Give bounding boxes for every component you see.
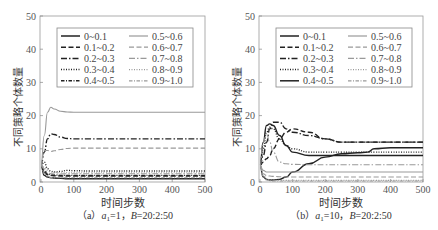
- legend-label: 0.6~0.7: [152, 42, 182, 53]
- legend-label: 0.1~0.2: [303, 42, 333, 53]
- legend-label: 0.4~0.5: [303, 75, 333, 86]
- y-tick-label: 30: [245, 77, 255, 88]
- legend-label: 0.9~1.0: [371, 75, 401, 86]
- legend-label: 0.1~0.2: [84, 42, 114, 53]
- x-axis-label: 时间步数: [319, 197, 363, 210]
- legend-label: 0.8~0.9: [152, 64, 182, 75]
- y-tick-label: 40: [26, 44, 36, 55]
- series-line-0.7~0.8: [41, 165, 205, 174]
- legend: 0~0.10.1~0.20.2~0.30.3~0.40.4~0.50.5~0.6…: [57, 28, 193, 87]
- series-line-0.8~0.9: [41, 165, 205, 172]
- x-tick-label: 0: [39, 184, 44, 195]
- legend-label: 0.7~0.8: [152, 53, 182, 64]
- x-tick-label: 500: [198, 184, 213, 195]
- panel-caption: （b）a1=10，B=20:2:50: [290, 210, 391, 223]
- x-tick-label: 0: [258, 184, 263, 195]
- x-tick-label: 400: [383, 184, 398, 195]
- x-tick-label: 200: [99, 184, 114, 195]
- y-tick-label: 30: [26, 77, 36, 88]
- x-axis-label: 时间步数: [101, 197, 145, 210]
- legend-label: 0.2~0.3: [303, 53, 333, 64]
- series-line-0.6~0.7: [260, 165, 423, 177]
- chart-panel-a: 010203040500100200300400500时间步数不同策略个体数量0…: [12, 11, 213, 224]
- y-tick-label: 20: [26, 110, 36, 121]
- series-line-0.2~0.3: [41, 134, 205, 166]
- panel-caption: （a）a1=1，B=20:2:50: [77, 210, 173, 223]
- series-line-0.5~0.6: [41, 107, 205, 165]
- y-tick-label: 40: [245, 44, 255, 55]
- legend-label: 0~0.1: [84, 31, 107, 42]
- chart-panel-b: 010203040500100200300400500时间步数不同策略个体数量0…: [231, 11, 431, 224]
- x-tick-label: 100: [285, 184, 300, 195]
- legend-label: 0.2~0.3: [84, 53, 114, 64]
- figure: 010203040500100200300400500时间步数不同策略个体数量0…: [0, 0, 438, 230]
- y-tick-label: 10: [26, 143, 36, 154]
- legend-label: 0.9~1.0: [152, 75, 182, 86]
- y-tick-label: 0: [31, 177, 36, 188]
- series-line-0~0.1: [260, 124, 423, 165]
- series-line-0.5~0.6: [260, 165, 423, 172]
- series-line-0.7~0.8: [260, 134, 423, 166]
- legend-label: 0.3~0.4: [303, 64, 333, 75]
- legend-label: 0.3~0.4: [84, 64, 114, 75]
- legend-label: 0.4~0.5: [84, 75, 114, 86]
- x-tick-label: 300: [132, 184, 147, 195]
- y-tick-label: 10: [245, 143, 255, 154]
- y-tick-label: 50: [26, 11, 36, 22]
- y-axis-label: 不同策略个体数量: [12, 67, 24, 147]
- x-tick-label: 200: [318, 184, 333, 195]
- series-line-0.6~0.7: [41, 148, 205, 165]
- x-tick-label: 400: [165, 184, 180, 195]
- x-tick-label: 300: [350, 184, 365, 195]
- y-tick-label: 50: [245, 11, 255, 22]
- series-line-0.3~0.4: [41, 162, 205, 172]
- series-line-0.8~0.9: [260, 165, 423, 180]
- y-tick-label: 0: [250, 177, 255, 188]
- legend: 0~0.10.1~0.20.2~0.30.3~0.40.4~0.50.5~0.6…: [276, 28, 412, 87]
- x-tick-label: 500: [416, 184, 431, 195]
- series-line-0.9~1.0: [260, 165, 423, 181]
- legend-label: 0.8~0.9: [371, 64, 401, 75]
- legend-label: 0.6~0.7: [371, 42, 401, 53]
- series-line-0.1~0.2: [41, 165, 205, 176]
- y-axis-label: 不同策略个体数量: [231, 67, 243, 147]
- legend-label: 0~0.1: [303, 31, 326, 42]
- legend-label: 0.7~0.8: [371, 53, 401, 64]
- legend-label: 0.5~0.6: [152, 31, 182, 42]
- legend-label: 0.5~0.6: [371, 31, 401, 42]
- y-tick-label: 20: [245, 110, 255, 121]
- x-tick-label: 100: [66, 184, 81, 195]
